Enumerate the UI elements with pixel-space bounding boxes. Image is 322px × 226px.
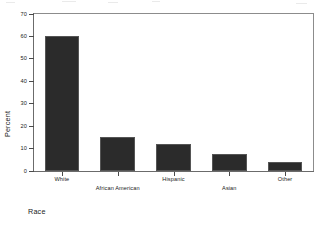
y-axis-tick-label: 0 xyxy=(5,168,27,174)
bar xyxy=(156,144,191,171)
y-axis-tick xyxy=(29,58,34,59)
x-axis-tick-label: African American xyxy=(96,185,140,192)
y-axis-tick-label: 50 xyxy=(5,55,27,61)
y-axis-tick xyxy=(29,171,34,172)
x-axis-tick-label: Hispanic xyxy=(162,176,184,183)
plot-area xyxy=(34,14,313,171)
y-axis-tick xyxy=(29,126,34,127)
y-axis-title: Percent xyxy=(4,100,12,148)
scan-artifact xyxy=(296,3,307,4)
scan-artifact xyxy=(108,2,118,3)
y-axis-tick-label: 60 xyxy=(5,33,27,39)
x-axis-tick-label: White xyxy=(54,176,69,183)
y-axis-tick xyxy=(29,36,34,37)
y-axis-tick xyxy=(29,148,34,149)
y-axis-tick-label: 40 xyxy=(5,78,27,84)
y-axis-tick xyxy=(29,14,34,15)
bar xyxy=(212,154,247,171)
y-axis-tick xyxy=(29,81,34,82)
bar-chart: 010203040506070 WhiteAfrican AmericanHis… xyxy=(0,0,322,226)
scan-artifact xyxy=(62,1,76,2)
scan-artifact xyxy=(152,1,160,2)
bar xyxy=(100,137,135,171)
x-axis-tick xyxy=(229,172,230,176)
x-axis-tick-label: Other xyxy=(278,176,293,183)
x-axis-title: Race xyxy=(28,207,46,216)
x-axis-tick xyxy=(118,172,119,176)
y-axis-tick-label: 70 xyxy=(5,11,27,17)
bar xyxy=(45,36,80,171)
y-axis-tick xyxy=(29,103,34,104)
bar xyxy=(268,162,303,171)
x-axis-tick-label: Asian xyxy=(222,185,237,192)
